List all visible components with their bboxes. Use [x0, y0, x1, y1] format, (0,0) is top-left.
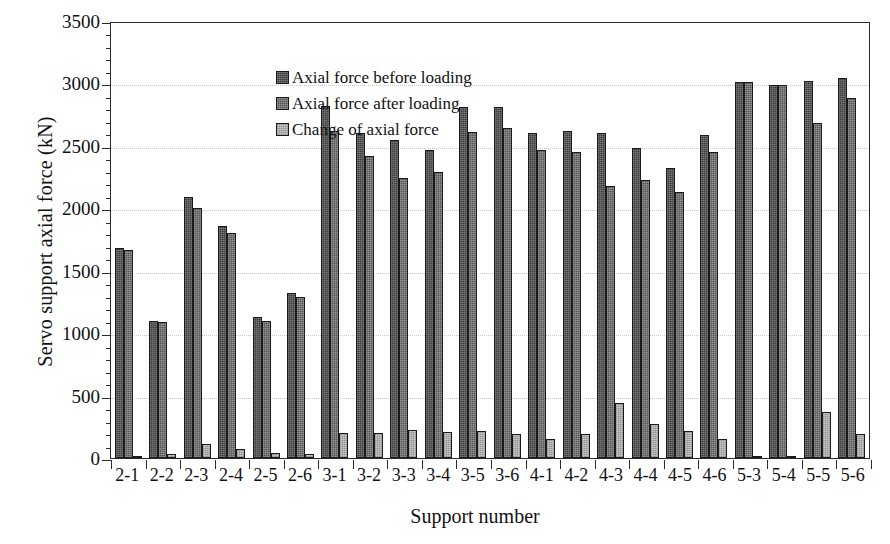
bar — [218, 226, 227, 458]
bar — [503, 128, 512, 458]
bar-group — [490, 23, 524, 458]
bar — [202, 444, 211, 458]
x-tick-label: 4-1 — [525, 466, 560, 496]
bar — [408, 430, 417, 458]
y-tick-major — [102, 23, 111, 24]
bar-group — [559, 23, 593, 458]
bar-group — [766, 23, 800, 458]
bar — [700, 135, 709, 458]
bar — [321, 106, 330, 458]
bar — [477, 431, 486, 458]
bar — [494, 107, 503, 458]
bar-group — [111, 23, 145, 458]
bar — [606, 186, 615, 458]
y-tick-label: 2000 — [28, 199, 100, 218]
y-tick-major — [102, 398, 111, 399]
bar — [236, 449, 245, 458]
y-tick-major — [102, 335, 111, 336]
bar-group — [697, 23, 731, 458]
x-tick-label: 5-3 — [732, 466, 767, 496]
bar — [838, 78, 847, 458]
legend-label-before: Axial force before loading — [292, 67, 472, 88]
y-tick-label: 1500 — [28, 262, 100, 281]
bar — [184, 197, 193, 458]
x-tick-label: 3-3 — [386, 466, 421, 496]
bar — [597, 133, 606, 458]
bar — [443, 432, 452, 458]
bar — [115, 248, 124, 458]
x-tick-label: 4-2 — [559, 466, 594, 496]
bar — [769, 85, 778, 458]
x-tick-label: 3-2 — [352, 466, 387, 496]
bar — [468, 132, 477, 458]
x-tick-label: 4-5 — [663, 466, 698, 496]
bar — [632, 148, 641, 458]
bar — [822, 412, 831, 458]
bar-group — [835, 23, 869, 458]
bar — [804, 81, 813, 458]
bar — [563, 131, 572, 458]
bar — [133, 456, 142, 458]
bar — [296, 297, 305, 458]
bar — [305, 454, 314, 458]
y-tick-label: 2500 — [28, 137, 100, 156]
x-tick — [871, 460, 872, 469]
bar-group — [628, 23, 662, 458]
legend-swatch-icon-change — [276, 123, 289, 136]
bar — [650, 424, 659, 458]
y-tick-label: 500 — [28, 387, 100, 406]
bar — [459, 107, 468, 458]
x-tick-label: 3-6 — [490, 466, 525, 496]
bar — [787, 456, 796, 458]
y-tick-major — [102, 148, 111, 149]
x-tick-label: 2-5 — [248, 466, 283, 496]
bar — [339, 433, 348, 458]
bar — [271, 453, 280, 458]
bar-group — [214, 23, 248, 458]
bar — [735, 82, 744, 458]
bar — [709, 152, 718, 458]
bar — [528, 133, 537, 458]
y-tick-major — [102, 85, 111, 86]
bar — [262, 321, 271, 458]
bar-series-container — [111, 23, 869, 458]
bar — [546, 439, 555, 458]
y-tick-major — [102, 460, 111, 461]
x-tick-label: 2-2 — [145, 466, 180, 496]
y-tick-label: 0 — [28, 449, 100, 468]
y-tick-major — [102, 210, 111, 211]
bar — [718, 439, 727, 458]
bar — [149, 321, 158, 458]
legend-label-after: Axial force after loading — [292, 93, 460, 114]
bar — [124, 250, 133, 459]
bar — [581, 434, 590, 458]
bar-group — [731, 23, 765, 458]
bar-group — [593, 23, 627, 458]
bar — [641, 180, 650, 458]
x-tick-label: 2-3 — [179, 466, 214, 496]
bar-group — [524, 23, 558, 458]
bar — [356, 133, 365, 458]
bar — [813, 123, 822, 458]
bar — [778, 85, 787, 458]
x-tick-label: 3-5 — [455, 466, 490, 496]
bar — [374, 433, 383, 458]
x-tick-label: 5-5 — [801, 466, 836, 496]
x-tick-label: 5-4 — [766, 466, 801, 496]
chart-legend: Axial force before loading Axial force a… — [276, 67, 472, 145]
x-tick-label: 3-4 — [421, 466, 456, 496]
bar — [537, 150, 546, 458]
bar — [615, 403, 624, 458]
bar — [390, 140, 399, 458]
bar — [847, 98, 856, 458]
y-tick-label: 3500 — [28, 12, 100, 31]
legend-item-after: Axial force after loading — [276, 93, 472, 114]
x-axis-labels: 2-12-22-32-42-52-63-13-23-33-43-53-64-14… — [110, 466, 870, 496]
bar — [253, 317, 262, 458]
x-tick-label: 3-1 — [317, 466, 352, 496]
legend-label-change: Change of axial force — [292, 119, 439, 140]
y-tick-major — [102, 273, 111, 274]
bar — [753, 456, 762, 458]
legend-item-before: Axial force before loading — [276, 67, 472, 88]
x-tick-label: 2-4 — [214, 466, 249, 496]
